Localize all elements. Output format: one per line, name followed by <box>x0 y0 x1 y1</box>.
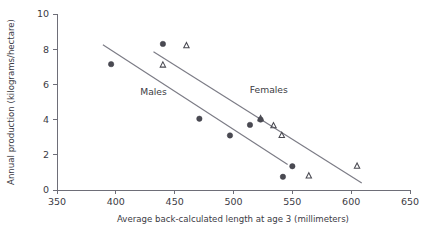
axes-group: 0246810350400450500550600650 <box>37 8 419 207</box>
data-point-males <box>247 122 252 127</box>
chart-svg: 0246810350400450500550600650 MalesFemale… <box>0 0 429 231</box>
y-tick-label: 6 <box>43 79 49 90</box>
data-point-males <box>290 164 295 169</box>
x-tick-label: 500 <box>224 196 242 207</box>
data-point-males <box>160 41 165 46</box>
y-tick-label: 4 <box>43 114 49 125</box>
x-tick-label: 550 <box>283 196 301 207</box>
data-point-females <box>184 42 189 47</box>
data-point-males <box>280 174 285 179</box>
x-tick-label: 450 <box>166 196 184 207</box>
x-tick-label: 600 <box>342 196 360 207</box>
data-point-females <box>306 173 311 178</box>
data-point-males <box>197 116 202 121</box>
x-axis-title: Average back-calculated length at age 3 … <box>117 214 349 224</box>
trend-lines-group <box>103 45 362 183</box>
data-point-females <box>160 62 165 67</box>
data-points-group <box>108 41 359 179</box>
y-tick-label: 2 <box>43 149 49 160</box>
data-point-females <box>354 163 359 168</box>
x-tick-label: 400 <box>107 196 125 207</box>
y-tick-label: 0 <box>43 184 49 195</box>
x-tick-label: 350 <box>48 196 66 207</box>
trend-line-males <box>103 45 288 165</box>
data-point-females <box>279 132 284 137</box>
x-tick-label: 650 <box>401 196 419 207</box>
y-tick-label: 10 <box>37 8 49 19</box>
data-point-males <box>227 133 232 138</box>
trend-line-females <box>153 52 361 183</box>
y-axis-title: Annual production (kilograms/hectare) <box>6 19 16 185</box>
annotation-males: Males <box>140 86 167 97</box>
y-tick-label: 8 <box>43 44 49 55</box>
scatter-chart: 0246810350400450500550600650 MalesFemale… <box>0 0 429 231</box>
annotation-females: Females <box>250 84 288 95</box>
data-point-males <box>108 61 113 66</box>
